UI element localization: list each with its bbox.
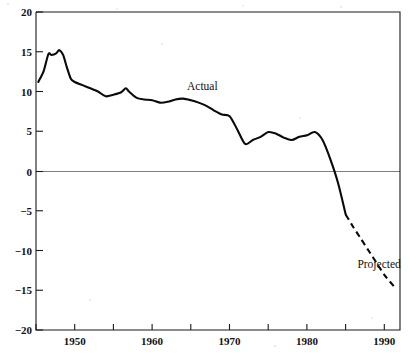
- y-tick-label: 10: [21, 86, 33, 98]
- y-tick-label: 20: [21, 6, 33, 18]
- x-tick-label: 1990: [373, 335, 396, 347]
- line-chart: 20 15 10 5 0 −5 −10 −15 −20 1950 1960: [0, 0, 415, 356]
- x-tick-label: 1970: [219, 335, 242, 347]
- annotation-projected: Projected: [357, 258, 401, 271]
- x-tick-label: 1950: [64, 335, 87, 347]
- y-tick-label: −10: [15, 245, 33, 257]
- chart-figure: 20 15 10 5 0 −5 −10 −15 −20 1950 1960: [0, 0, 415, 356]
- y-tick-label: −20: [15, 324, 33, 336]
- y-tick-label: −5: [20, 205, 32, 217]
- x-tick-label: 1980: [296, 335, 319, 347]
- y-tick-label: 5: [27, 125, 33, 137]
- x-tick-label: 1960: [141, 335, 164, 347]
- y-tick-label: −15: [15, 284, 33, 296]
- y-tick-label: 15: [21, 46, 33, 58]
- annotation-actual: Actual: [187, 80, 218, 92]
- y-tick-label: 0: [27, 166, 33, 178]
